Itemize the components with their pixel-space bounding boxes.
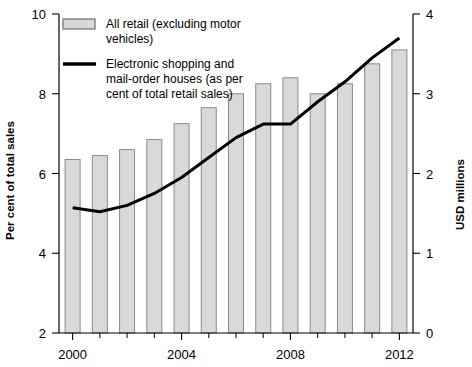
left-tick-label-8: 8 (39, 87, 46, 102)
bar-2004 (174, 124, 189, 333)
right-tick-label-4: 4 (426, 7, 433, 22)
chart-container: 10 8 6 4 2 Per cent of total sales 4 3 2… (0, 0, 472, 367)
left-tick-label-4: 4 (39, 246, 46, 261)
left-axis: 10 8 6 4 2 Per cent of total sales (4, 7, 59, 341)
chart-svg: 10 8 6 4 2 Per cent of total sales 4 3 2… (0, 0, 472, 367)
left-tick-label-6: 6 (39, 167, 46, 182)
bar-2006 (229, 94, 244, 333)
legend-label-electronic-line3: cent of total retail sales) (106, 87, 233, 101)
x-tick-label-2012: 2012 (385, 347, 414, 362)
right-tick-label-1: 1 (426, 246, 433, 261)
legend-swatch-bar (63, 19, 95, 29)
legend-label-electronic-line1: Electronic shopping and (106, 57, 234, 71)
right-tick-label-2: 2 (426, 167, 433, 182)
legend-label-all-retail-line2: vehicles) (106, 32, 153, 46)
legend-label-electronic-line2: mail-order houses (as per (106, 72, 243, 86)
x-tick-label-2008: 2008 (276, 347, 305, 362)
bar-2008 (283, 78, 298, 333)
left-tick-label-10: 10 (32, 7, 46, 22)
bar-2002 (120, 150, 135, 333)
bar-2000 (65, 160, 80, 333)
x-tick-label-2000: 2000 (58, 347, 87, 362)
left-axis-title: Per cent of total sales (4, 121, 16, 240)
bar-2001 (92, 156, 107, 333)
bar-2003 (147, 140, 162, 333)
bar-2009 (310, 94, 325, 333)
right-tick-label-3: 3 (426, 87, 433, 102)
bar-2005 (201, 108, 216, 333)
bar-2011 (365, 64, 380, 333)
bar-2010 (337, 84, 352, 333)
x-axis: 2000 2004 2008 2012 (58, 333, 414, 362)
right-axis: 4 3 2 1 0 USD millions (413, 7, 466, 341)
right-tick-label-0: 0 (426, 326, 433, 341)
legend-label-all-retail-line1: All retail (excluding motor (106, 17, 241, 31)
right-axis-title: USD millions (454, 159, 466, 230)
bar-2012 (392, 50, 407, 333)
x-tick-label-2004: 2004 (167, 347, 196, 362)
left-tick-label-2: 2 (39, 326, 46, 341)
bar-2007 (256, 84, 271, 333)
